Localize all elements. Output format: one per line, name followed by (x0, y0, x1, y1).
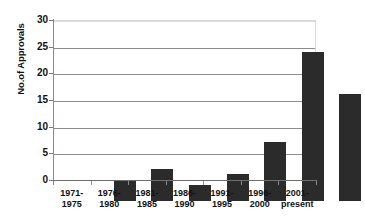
x-tick-mark-1 (91, 181, 92, 185)
x-tick-mark-2 (128, 181, 129, 185)
x-axis-line (53, 180, 317, 181)
y-axis-line (53, 19, 54, 181)
gridline-30 (53, 21, 315, 22)
y-tick-mark-15 (49, 100, 53, 101)
y-tick-label-15: 15 (12, 95, 48, 105)
x-label-line: present (269, 199, 325, 210)
x-tick-mark-0 (53, 181, 54, 185)
y-tick-mark-5 (49, 153, 53, 154)
y-tick-mark-10 (49, 127, 53, 128)
y-tick-label-25: 25 (12, 42, 48, 52)
x-tick-mark-7 (316, 181, 317, 185)
y-tick-mark-25 (49, 47, 53, 48)
plot-area (53, 20, 316, 180)
y-tick-label-10: 10 (12, 122, 48, 132)
x-tick-mark-6 (278, 181, 279, 185)
y-tick-mark-30 (49, 20, 53, 21)
x-tick-mark-5 (241, 181, 242, 185)
x-axis-label: 2001-present (269, 188, 325, 210)
x-label-line: 2001- (269, 188, 325, 199)
y-tick-label-30: 30 (12, 15, 48, 25)
y-tick-mark-20 (49, 73, 53, 74)
x-tick-mark-3 (166, 181, 167, 185)
bar-series (106, 41, 365, 201)
bar (302, 52, 324, 201)
y-tick-label-0: 0 (12, 175, 48, 185)
y-tick-label-5: 5 (12, 148, 48, 158)
x-tick-mark-4 (203, 181, 204, 185)
y-tick-label-20: 20 (12, 68, 48, 78)
bar (339, 94, 361, 201)
